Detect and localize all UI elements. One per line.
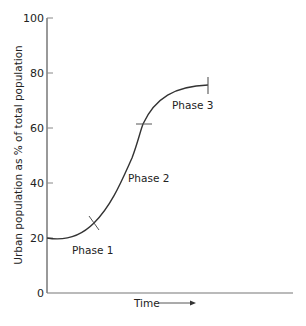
y-axis-title: Urban population as % of total populatio… [12, 45, 24, 265]
y-ticks [47, 18, 53, 238]
phase1-boundary-tick [89, 216, 99, 230]
phase2-label: Phase 2 [128, 172, 169, 184]
y-tick-label: 40 [30, 177, 44, 190]
y-tick-label: 80 [30, 67, 44, 80]
x-axis-title: Time [133, 297, 160, 309]
phase3-label: Phase 3 [172, 99, 213, 111]
y-tick-label: 60 [30, 122, 44, 135]
y-tick-label: 20 [30, 232, 44, 245]
time-arrow-icon [190, 301, 196, 306]
y-tick-label: 0 [37, 287, 44, 300]
urbanization-curve-chart: 100 80 60 40 20 0 Urban population as % … [0, 0, 306, 326]
phase1-label: Phase 1 [72, 244, 113, 256]
y-tick-label: 100 [23, 12, 44, 25]
